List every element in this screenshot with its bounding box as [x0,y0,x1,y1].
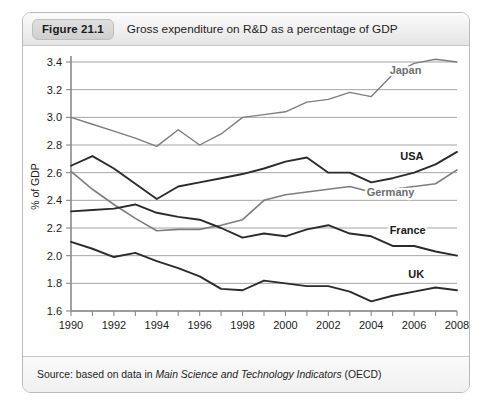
series-line-uk [71,242,457,301]
figure-card: Figure 21.1 Gross expenditure on R&D as … [22,12,470,393]
x-tick-label: 1994 [145,319,169,331]
x-tick-label: 1992 [102,319,126,331]
figure-header: Figure 21.1 Gross expenditure on R&D as … [23,13,469,46]
y-axis [66,56,71,311]
y-tick-label: 2.8 [47,139,62,151]
y-tick-label: 3.2 [47,84,62,96]
y-tick-label: 3.0 [47,111,62,123]
y-tick-labels: 1.61.82.02.22.42.62.83.03.23.4 [47,56,62,317]
series-label-usa: USA [400,150,423,162]
y-tick-label: 1.8 [47,277,62,289]
figure-caption: Gross expenditure on R&D as a percentage… [127,22,398,36]
y-tick-label: 2.4 [47,194,62,206]
line-chart: 1.61.82.02.22.42.62.83.03.23.4 199019921… [23,46,469,357]
y-tick-label: 2.0 [47,250,62,262]
x-tick-label: 2006 [402,319,426,331]
y-tick-label: 3.4 [47,56,62,68]
series-label-germany: Germany [367,186,416,198]
source-title: Main Science and Technology Indicators [155,369,341,380]
x-tick-label: 2002 [316,319,340,331]
y-tick-label: 2.2 [47,222,62,234]
x-tick-labels: 1990199219941996199820002002200420062008 [59,319,469,331]
figure-number-badge: Figure 21.1 [32,19,114,40]
x-axis [71,311,457,316]
y-axis-title-text: % of GDP [29,163,41,210]
x-tick-label: 2000 [273,319,297,331]
y-tick-label: 2.6 [47,167,62,179]
x-tick-label: 1998 [230,319,254,331]
series-lines [71,59,457,301]
source-bar: Source: based on data in Main Science an… [23,356,469,392]
series-label-uk: UK [408,268,424,280]
x-tick-label: 1996 [187,319,211,331]
y-tick-label: 1.6 [47,305,62,317]
x-tick-label: 2004 [359,319,383,331]
series-label-japan: Japan [390,64,422,76]
x-tick-label: 1990 [59,319,83,331]
source-note: Source: based on data in Main Science an… [37,369,381,380]
chart-plot-area: 1.61.82.02.22.42.62.83.03.23.4 199019921… [23,46,469,357]
x-tick-label: 2008 [445,319,469,331]
y-axis-title: % of GDP [29,163,41,210]
series-label-france: France [390,224,426,236]
